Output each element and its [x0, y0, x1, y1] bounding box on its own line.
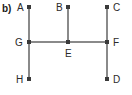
part-label-b: b) — [2, 3, 11, 14]
point-dot-c — [105, 5, 108, 8]
point-label-a: A — [17, 2, 24, 13]
point-dot-a — [27, 5, 30, 8]
point-dot-b — [66, 5, 69, 8]
point-dot-e — [66, 40, 69, 43]
point-label-c: C — [113, 2, 120, 13]
point-dot-h — [27, 77, 30, 80]
point-label-h: H — [16, 74, 23, 85]
point-label-f: F — [113, 37, 119, 48]
point-label-d: D — [113, 74, 120, 85]
point-dot-f — [105, 40, 108, 43]
point-dot-d — [105, 77, 108, 80]
geometry-figure: b) ABCGEFHD — [0, 0, 132, 95]
point-label-e: E — [65, 48, 72, 59]
point-dot-g — [27, 40, 30, 43]
point-label-b: B — [56, 2, 63, 13]
point-label-g: G — [15, 37, 23, 48]
